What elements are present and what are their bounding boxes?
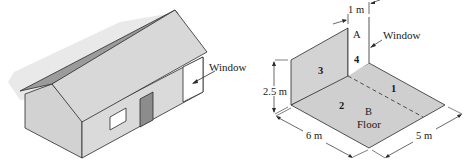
floor-label: Floor xyxy=(357,119,381,130)
window-label-house: Window xyxy=(209,62,246,73)
dimension-label-5m: 5 m xyxy=(416,131,432,142)
surface-label-a: A xyxy=(353,30,361,41)
surface-label-1: 1 xyxy=(391,84,396,95)
surface-label-b: B xyxy=(365,107,372,118)
window-label-room: Window xyxy=(383,30,420,41)
dimension-label-2-5m: 2.5 m xyxy=(263,87,287,98)
surface-label-4: 4 xyxy=(354,55,359,66)
dimension-label-6m: 6 m xyxy=(306,131,322,142)
dimension-label-1m: 1 m xyxy=(348,5,364,16)
surface-label-2: 2 xyxy=(339,101,344,112)
surface-label-3: 3 xyxy=(318,66,323,77)
diagram-figure: Window 1 m A Window 4 3 1 2.5 m 2 B Floo… xyxy=(0,0,469,167)
house-illustration xyxy=(0,0,469,167)
